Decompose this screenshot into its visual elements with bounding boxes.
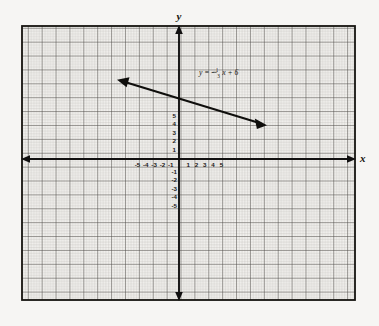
x-tick-label: 4	[211, 161, 215, 168]
y-tick-labels-positive: 5 4 3 2 1	[173, 112, 177, 153]
y-tick-label: -1	[171, 168, 177, 175]
x-tick-label: 3	[203, 161, 207, 168]
x-axis-label: x	[359, 152, 366, 164]
coordinate-plane-graph: x y -5 -4 -3 -2 -1 1 2 3 4 5 5 4 3 2 1 -…	[0, 0, 379, 326]
x-tick-label: -5	[135, 161, 141, 168]
y-tick-label: -4	[171, 193, 177, 200]
y-tick-label: 4	[173, 120, 177, 127]
y-axis-label: y	[175, 10, 182, 22]
y-tick-label: 2	[173, 137, 177, 144]
equation-lhs: y = -	[198, 68, 214, 77]
y-tick-label: -5	[171, 202, 177, 209]
x-tick-label: 2	[195, 161, 199, 168]
y-tick-label: 5	[173, 112, 177, 119]
equation-rhs: x + 6	[221, 68, 238, 77]
y-tick-labels-negative: -1 -2 -3 -4 -5	[171, 168, 177, 209]
graph-figure: x y -5 -4 -3 -2 -1 1 2 3 4 5 5 4 3 2 1 -…	[0, 0, 379, 326]
y-tick-label: 1	[173, 146, 177, 153]
equation-denominator: 3	[217, 73, 220, 79]
x-tick-label: 5	[220, 161, 224, 168]
x-tick-label: 1	[186, 161, 190, 168]
x-tick-label: -2	[160, 161, 166, 168]
equation-numerator: 1	[216, 67, 219, 73]
x-tick-label: -4	[143, 161, 149, 168]
y-tick-label: -3	[171, 185, 177, 192]
y-tick-label: -2	[171, 176, 177, 183]
x-tick-label: -3	[151, 161, 157, 168]
y-tick-label: 3	[173, 129, 177, 136]
